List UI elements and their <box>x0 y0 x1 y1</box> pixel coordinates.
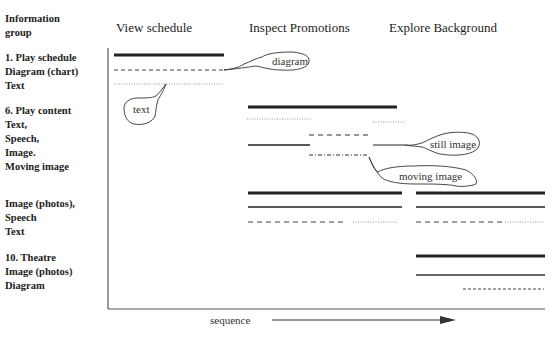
sequence-arrow-head-icon <box>440 316 456 324</box>
timeline-diagram: diagram text still image moving image <box>0 0 555 337</box>
still-image-callout-text: still image <box>430 138 476 150</box>
text-callout-text: text <box>133 103 150 115</box>
diagram-callout-text: diagram <box>272 55 308 67</box>
moving-image-callout-text: moving image <box>399 170 462 182</box>
x-axis-label: sequence <box>210 314 250 326</box>
